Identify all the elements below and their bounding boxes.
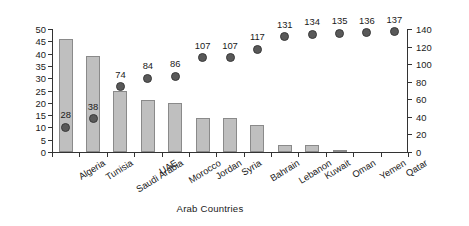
y-axis-left-tick-label: 25 (18, 87, 46, 96)
y-axis-left-tick (48, 103, 52, 104)
y-axis-left-tick (48, 29, 52, 30)
bar-kuwait (305, 145, 319, 152)
y-axis-right-tick-label: 60 (416, 95, 442, 104)
y-axis-right-tick (408, 47, 412, 48)
y-axis-left-line (52, 29, 53, 153)
bar-saudi-arabia (113, 91, 127, 153)
y-axis-left-tick-label: 0 (18, 148, 46, 157)
y-axis-right-tick (408, 64, 412, 65)
ranking-value-label: 117 (240, 32, 274, 41)
y-axis-left-tick-label: 10 (18, 123, 46, 132)
ranking-dot-morocco (171, 72, 180, 81)
chart-container: Women's Share in Parlimentary Seats, % R… (0, 0, 469, 226)
y-axis-right-tick (408, 29, 412, 30)
y-axis-right-tick-label: 120 (416, 43, 442, 52)
x-axis-category-label: Tunisia (104, 157, 135, 182)
y-axis-left-tick-label: 35 (18, 62, 46, 71)
y-axis-left-tick (48, 91, 52, 92)
x-axis-tick (244, 153, 245, 157)
ranking-dot-tunisia (89, 114, 98, 123)
ranking-value-label: 86 (158, 59, 192, 68)
y-axis-left-tick-label: 45 (18, 37, 46, 46)
ranking-dot-kuwait (308, 30, 317, 39)
x-axis-tick (381, 153, 382, 157)
bar-morocco (168, 103, 182, 152)
ranking-value-label: 28 (49, 110, 83, 119)
ranking-dot-oman (335, 29, 344, 38)
x-axis-tick (107, 153, 108, 157)
y-axis-left-tick-label: 50 (18, 25, 46, 34)
y-axis-left-tick (48, 127, 52, 128)
ranking-dot-jordan (198, 53, 207, 62)
y-axis-right-tick-label: 100 (416, 60, 442, 69)
y-axis-left-tick (48, 78, 52, 79)
x-axis-tick (271, 153, 272, 157)
x-axis-tick (162, 153, 163, 157)
x-axis-category-label: Bahrain (268, 157, 301, 183)
x-axis-category-label: Saudi Arabia (135, 157, 186, 195)
y-axis-right-tick-label: 40 (416, 113, 442, 122)
x-axis-tick (353, 153, 354, 157)
y-axis-left-tick (48, 140, 52, 141)
y-axis-right-tick (408, 99, 412, 100)
y-axis-left-tick (48, 54, 52, 55)
y-axis-right-tick-label: 0 (416, 148, 442, 157)
x-axis-line (52, 152, 408, 153)
ranking-value-label: 107 (213, 41, 247, 50)
ranking-dot-uae (143, 74, 152, 83)
bar-bahrain (250, 125, 264, 152)
x-axis-tick (134, 153, 135, 157)
bar-jordan (196, 118, 210, 152)
x-axis-tick (298, 153, 299, 157)
y-axis-left-tick-label: 30 (18, 74, 46, 83)
y-axis-left-tick-label: 40 (18, 50, 46, 59)
y-axis-right-tick (408, 82, 412, 83)
y-axis-left-tick-label: 5 (18, 136, 46, 145)
ranking-value-label: 74 (103, 70, 137, 79)
ranking-dot-lebanon (280, 32, 289, 41)
bar-algeria (59, 39, 73, 152)
ranking-value-label: 38 (76, 102, 110, 111)
x-axis-tick (79, 153, 80, 157)
ranking-dot-syria (226, 53, 235, 62)
x-axis-category-label: Oman (349, 157, 376, 180)
ranking-dot-yemen (362, 28, 371, 37)
y-axis-right-tick (408, 134, 412, 135)
bar-lebanon (278, 145, 292, 152)
plot-area: 05101520253035404550 020406080100120140 … (52, 29, 408, 152)
x-axis-category-label: Qatar (404, 157, 430, 179)
x-axis-tick (408, 153, 409, 157)
x-axis-tick (189, 153, 190, 157)
x-axis-tick (52, 153, 53, 157)
y-axis-right-tick-label: 20 (416, 130, 442, 139)
y-axis-right-tick-label: 80 (416, 78, 442, 87)
ranking-dot-qatar (390, 27, 399, 36)
ranking-value-label: 137 (377, 15, 411, 24)
x-axis-title: Arab Countries (0, 203, 420, 214)
x-axis-category-label: Algeria (76, 157, 107, 182)
y-axis-left-tick (48, 66, 52, 67)
bar-uae (141, 100, 155, 152)
y-axis-left-tick-label: 15 (18, 111, 46, 120)
bar-oman (333, 150, 347, 152)
y-axis-left-tick (48, 41, 52, 42)
y-axis-left-tick-label: 20 (18, 99, 46, 108)
y-axis-right-tick (408, 117, 412, 118)
y-axis-right-title: Ranking (out of 137 Countries) (447, 0, 461, 6)
bar-syria (223, 118, 237, 152)
y-axis-right-tick-label: 140 (416, 25, 442, 34)
ranking-dot-bahrain (253, 45, 262, 54)
x-axis-category-label: Syria (239, 157, 263, 178)
